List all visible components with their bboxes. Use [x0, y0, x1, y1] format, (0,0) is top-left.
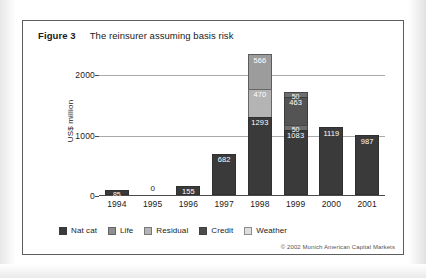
x-tick-label: 1999 — [286, 199, 305, 209]
bar-column: 155 — [176, 186, 200, 195]
legend-label: Weather — [256, 226, 287, 235]
x-tick-label: 1994 — [107, 199, 126, 209]
bar-column: 1293470566 — [248, 54, 272, 195]
bar-segment: 463 — [284, 97, 308, 125]
figure-title: The reinsurer assuming basis risk — [90, 30, 234, 41]
legend-swatch-icon — [59, 227, 67, 235]
legend-swatch-icon — [244, 227, 252, 235]
legend-swatch-icon — [144, 227, 152, 235]
bar-value-label: 470 — [253, 90, 266, 99]
bar-segment: 682 — [212, 154, 236, 195]
y-tick-label: 1000 — [75, 131, 95, 141]
legend-item[interactable]: Residual — [144, 226, 188, 235]
bar-segment: 1119 — [319, 127, 343, 195]
scan-edge-bottom — [0, 264, 426, 278]
bar-column: 1119 — [319, 127, 343, 195]
legend-label: Nat cat — [71, 226, 97, 235]
y-axis-tick-labels: 010002000 — [51, 51, 95, 196]
bar-segment: 50 — [284, 125, 308, 130]
bar-column: 10835046350 — [284, 92, 308, 195]
legend-swatch-icon — [108, 227, 116, 235]
bar-value-label: 987 — [361, 136, 374, 145]
x-tick-label: 1996 — [179, 199, 198, 209]
bar-segment: 566 — [248, 54, 272, 88]
legend-item[interactable]: Life — [108, 226, 133, 235]
scan-edge-right — [408, 0, 426, 278]
bar-segment: 85 — [105, 190, 129, 195]
x-tick-label: 1997 — [214, 199, 233, 209]
bar-value-label: 1119 — [323, 128, 339, 137]
legend-label: Life — [120, 226, 133, 235]
bar-column: 682 — [212, 154, 236, 195]
plot-area: US$ million 010002000 850155682129347056… — [37, 51, 393, 223]
copyright-notice: © 2002 Munich American Capital Markets — [281, 244, 395, 250]
bar-value-label: 50 — [292, 93, 300, 101]
bar-segment: 470 — [248, 89, 272, 117]
bar-column: 987 — [355, 135, 379, 195]
bar-value-label: 682 — [218, 155, 231, 164]
figure-frame: Figure 3 The reinsurer assuming basis ri… — [22, 20, 404, 255]
bar-value-label: 85 — [113, 191, 121, 199]
bar-value-label: 50 — [292, 126, 300, 134]
bar-value-label: 1293 — [251, 118, 268, 127]
bar-segment: 1293 — [248, 117, 272, 195]
x-tick-label: 1998 — [250, 199, 269, 209]
figure-page: Figure 3 The reinsurer assuming basis ri… — [0, 0, 426, 278]
bar-value-label: 566 — [253, 55, 266, 64]
x-tick-label: 1995 — [143, 199, 162, 209]
legend-item[interactable]: Weather — [244, 226, 287, 235]
bars-layer: 8501556821293470566108350463501119987 — [99, 51, 385, 196]
y-tickmark — [95, 196, 99, 197]
bar-value-label: 155 — [182, 187, 195, 196]
legend-swatch-icon — [199, 227, 207, 235]
figure-title-row: Figure 3 The reinsurer assuming basis ri… — [38, 30, 233, 41]
bar-segment: 987 — [355, 135, 379, 195]
chart-legend: Nat catLifeResidualCreditWeather — [59, 226, 379, 235]
x-tick-label: 2001 — [357, 199, 376, 209]
bar-column: 85 — [105, 190, 129, 195]
x-tick-label: 2000 — [322, 199, 341, 209]
bar-segment: 50 — [284, 92, 308, 97]
legend-label: Credit — [211, 226, 233, 235]
y-tick-label: 2000 — [75, 70, 95, 80]
legend-label: Residual — [156, 226, 188, 235]
bar-segment: 155 — [176, 186, 200, 195]
figure-number: Figure 3 — [38, 30, 76, 41]
bar-segment: 1083 — [284, 130, 308, 195]
zero-value-label: 0 — [150, 184, 154, 193]
legend-item[interactable]: Nat cat — [59, 226, 97, 235]
x-axis-tick-labels: 19941995199619971998199920002001 — [99, 199, 385, 213]
scan-edge-left — [0, 0, 16, 278]
legend-item[interactable]: Credit — [199, 226, 233, 235]
